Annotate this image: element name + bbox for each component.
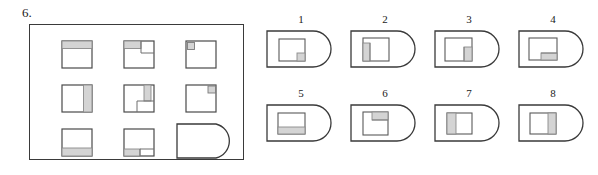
option-7-figure [433,101,505,149]
question-number: 6. [22,6,32,19]
option-5[interactable]: 5 [262,88,340,150]
option-8-figure [517,101,589,149]
matrix-cell-7 [61,128,93,157]
matrix-grid [30,25,245,161]
option-3-figure [433,27,505,75]
option-5-label: 5 [262,88,340,99]
option-6-figure [349,101,421,149]
answer-options: 1 2 3 [262,14,598,166]
option-2-figure [349,27,421,75]
option-5-figure [265,101,337,149]
option-6[interactable]: 6 [346,88,424,150]
matrix-frame [29,24,244,160]
option-3[interactable]: 3 [430,14,508,76]
matrix-cell-9-missing [175,121,237,161]
option-2[interactable]: 2 [346,14,424,76]
question-panel: 6. [0,0,598,175]
option-8[interactable]: 8 [514,88,592,150]
option-2-label: 2 [346,14,424,25]
matrix-cell-3 [185,40,217,69]
option-4-label: 4 [514,14,592,25]
matrix-cell-1 [61,40,93,69]
option-3-label: 3 [430,14,508,25]
matrix-cell-4 [61,84,93,113]
option-7-label: 7 [430,88,508,99]
option-4-figure [517,27,589,75]
matrix-cell-5 [123,84,155,113]
option-8-label: 8 [514,88,592,99]
matrix-cell-2 [123,40,155,69]
option-4[interactable]: 4 [514,14,592,76]
matrix-cell-6 [185,84,217,113]
option-7[interactable]: 7 [430,88,508,150]
option-1-label: 1 [262,14,340,25]
option-1-figure [265,27,337,75]
matrix-cell-8 [123,128,155,157]
option-6-label: 6 [346,88,424,99]
option-1[interactable]: 1 [262,14,340,76]
